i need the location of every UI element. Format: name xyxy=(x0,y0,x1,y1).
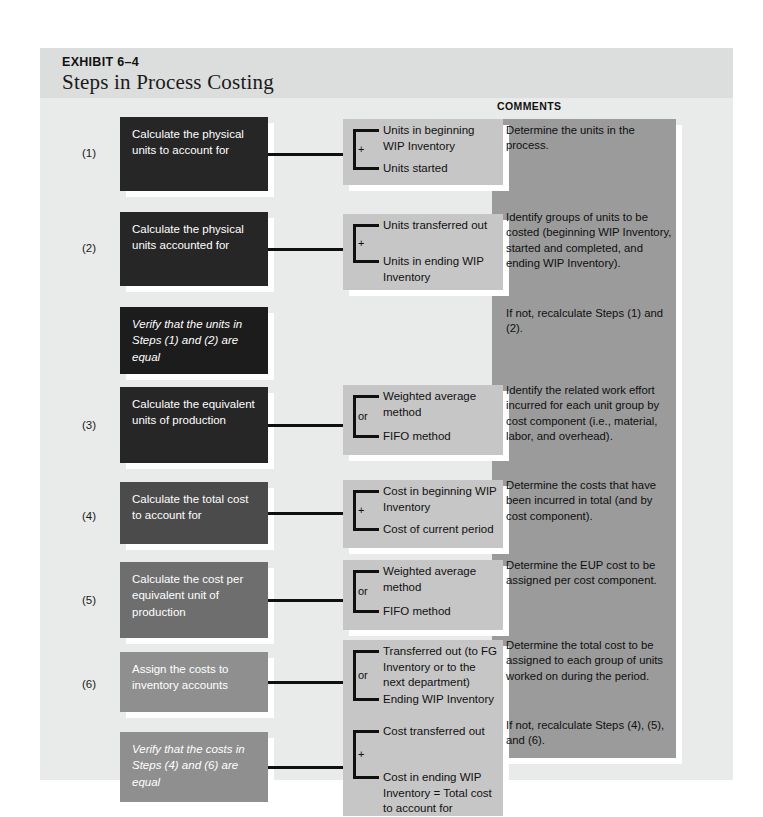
step-box-1[interactable]: Calculate the physical units to account … xyxy=(120,117,268,191)
exhibit-panel: EXHIBIT 6–4 Steps in Process Costing COM… xyxy=(40,48,733,780)
connector-line-4 xyxy=(268,512,353,515)
bracket-vertical-line xyxy=(353,490,356,531)
bracket-stub-1 xyxy=(353,224,379,227)
bracket-stub-2 xyxy=(353,776,379,779)
bracket-stub-2 xyxy=(353,698,379,701)
detail-item-1-1: Units in beginning WIP Inventory xyxy=(383,123,497,154)
step-box-5[interactable]: Calculate the cost per equivalent unit o… xyxy=(120,562,268,638)
bracket-stub-1 xyxy=(353,570,379,573)
detail-box-2: +Units transferred outUnits in ending WI… xyxy=(343,214,503,290)
step-box-2[interactable]: Calculate the physical units accounted f… xyxy=(120,212,268,286)
comment-verify2: If not, recalculate Steps (1) and (2). xyxy=(506,306,676,337)
bracket-stub-1 xyxy=(353,650,379,653)
operator-label-1: + xyxy=(358,144,364,155)
detail-item-2-2: Units in ending WIP Inventory xyxy=(383,254,497,285)
exhibit-title: Steps in Process Costing xyxy=(62,70,274,95)
step-number-2: (2) xyxy=(82,242,96,254)
connector-line-2 xyxy=(268,248,353,251)
detail-item-verify7-1: Cost transferred out xyxy=(383,724,497,740)
operator-label-2: + xyxy=(358,238,364,249)
detail-item-1-2: Units started xyxy=(383,161,497,177)
operator-label-4: + xyxy=(358,505,364,516)
detail-item-6-1: Transferred out (to FG Inventory or to t… xyxy=(383,644,497,691)
comment-6: Determine the total cost to be assigned … xyxy=(506,638,676,684)
detail-item-5-2: FIFO method xyxy=(383,604,497,620)
step-number-3: (3) xyxy=(82,419,96,431)
comment-1: Determine the units in the process. xyxy=(506,123,676,154)
step-box-4[interactable]: Calculate the total cost to account for xyxy=(120,482,268,544)
connector-line-3 xyxy=(268,424,353,427)
bracket-stub-2 xyxy=(353,610,379,613)
exhibit-label: EXHIBIT 6–4 xyxy=(62,55,139,69)
bracket-vertical-line xyxy=(353,224,356,263)
detail-box-5: orWeighted average methodFIFO method xyxy=(343,560,503,630)
operator-label-6: or xyxy=(358,670,368,681)
step-box-verify7[interactable]: Verify that the costs in Steps (4) and (… xyxy=(120,732,268,802)
detail-box-6: orTransferred out (to FG Inventory or to… xyxy=(343,640,503,720)
bracket-stub-1 xyxy=(353,490,379,493)
connector-line-verify7 xyxy=(268,766,353,769)
connector-line-5 xyxy=(268,599,353,602)
step-box-3[interactable]: Calculate the equivalent units of produc… xyxy=(120,387,268,463)
detail-item-4-1: Cost in beginning WIP Inventory xyxy=(383,484,497,515)
detail-box-verify7: +Cost transferred outCost in ending WIP … xyxy=(343,720,503,816)
detail-item-5-1: Weighted average method xyxy=(383,564,497,595)
comment-5: Determine the EUP cost to be assigned pe… xyxy=(506,558,676,589)
bracket-stub-1 xyxy=(353,730,379,733)
bracket-vertical-line xyxy=(353,395,356,438)
bracket-stub-2 xyxy=(353,435,379,438)
comment-verify7: If not, recalculate Steps (4), (5), and … xyxy=(506,718,676,749)
detail-item-4-2: Cost of current period xyxy=(383,522,497,538)
connector-line-1 xyxy=(268,153,353,156)
step-box-6[interactable]: Assign the costs to inventory accounts xyxy=(120,652,268,712)
detail-item-2-1: Units transferred out xyxy=(383,218,497,234)
operator-label-3: or xyxy=(358,411,368,422)
bracket-stub-2 xyxy=(353,528,379,531)
bracket-stub-2 xyxy=(353,260,379,263)
step-number-1: (1) xyxy=(82,147,96,159)
detail-item-verify7-2: Cost in ending WIP Inventory = Total cos… xyxy=(383,770,497,817)
detail-item-3-2: FIFO method xyxy=(383,429,497,445)
connector-line-6 xyxy=(268,681,353,684)
detail-box-4: +Cost in beginning WIP InventoryCost of … xyxy=(343,480,503,548)
comment-3: Identify the related work effort incurre… xyxy=(506,383,676,445)
detail-item-6-2: Ending WIP Inventory xyxy=(383,692,497,708)
detail-box-3: orWeighted average methodFIFO method xyxy=(343,385,503,455)
bracket-stub-2 xyxy=(353,167,379,170)
detail-item-3-1: Weighted average method xyxy=(383,389,497,420)
operator-label-5: or xyxy=(358,586,368,597)
bracket-vertical-line xyxy=(353,650,356,701)
operator-label-verify7: + xyxy=(358,749,364,760)
step-number-5: (5) xyxy=(82,594,96,606)
comments-column-header: COMMENTS xyxy=(497,100,561,112)
bracket-stub-1 xyxy=(353,395,379,398)
bracket-vertical-line xyxy=(353,129,356,170)
bracket-stub-1 xyxy=(353,129,379,132)
step-box-verify2[interactable]: Verify that the units in Steps (1) and (… xyxy=(120,307,268,374)
step-number-6: (6) xyxy=(82,678,96,690)
comment-2: Identify groups of units to be costed (b… xyxy=(506,210,676,272)
bracket-vertical-line xyxy=(353,730,356,779)
detail-box-1: +Units in beginning WIP InventoryUnits s… xyxy=(343,119,503,185)
comment-4: Determine the costs that have been incur… xyxy=(506,478,676,524)
bracket-vertical-line xyxy=(353,570,356,613)
step-number-4: (4) xyxy=(82,510,96,522)
